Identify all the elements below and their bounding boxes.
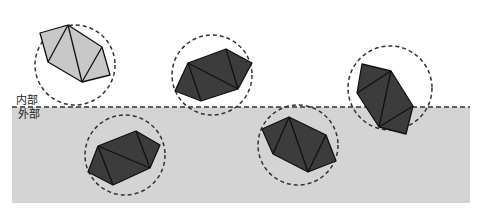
diagram-canvas	[0, 0, 480, 215]
dark-hexagon-center	[172, 35, 252, 115]
outside-label: 外部	[18, 109, 40, 120]
light-hexagon	[35, 25, 115, 105]
inside-label: 内部	[16, 95, 38, 106]
